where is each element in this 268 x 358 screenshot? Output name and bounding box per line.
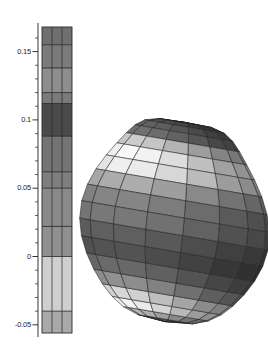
colorbar-band-4 (42, 104, 72, 137)
colorbar-band-10 (42, 311, 72, 333)
colorbar-band-7 (42, 188, 72, 226)
colorbar-band-3 (42, 93, 72, 104)
colorbar-axis (33, 23, 39, 337)
surface-cell (247, 211, 266, 232)
figure-canvas (0, 0, 268, 358)
surface-mesh (80, 118, 268, 323)
colorbar-band-5 (42, 136, 72, 172)
axis-tick-label: 0.05 (0, 184, 31, 192)
axis-tick-label: 0 (0, 253, 31, 261)
axis-tick-label: 0.1 (0, 116, 31, 124)
axis-tick-label: 0.15 (0, 48, 31, 56)
colorbar-band-2 (42, 68, 72, 93)
colorbar-band-8 (42, 226, 72, 256)
surface-cell (247, 229, 266, 249)
colorbar-bands (42, 27, 72, 333)
colorbar-band-6 (42, 172, 72, 188)
surface-cell (80, 218, 92, 237)
axis-tick-label: -0.05 (0, 321, 31, 329)
colorbar-band-9 (42, 257, 72, 312)
surface-cell (90, 202, 115, 223)
colorbar-band-0 (42, 27, 72, 45)
colorbar-band-1 (42, 45, 72, 68)
